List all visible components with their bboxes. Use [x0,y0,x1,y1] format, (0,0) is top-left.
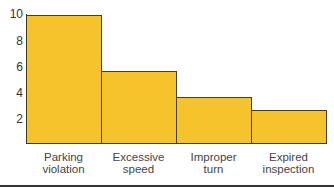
x-label-line: inspection [251,163,326,175]
y-tick-4: 4 [3,86,23,100]
bar-improper-turn [176,97,252,144]
bar-parking-violation [26,15,102,144]
y-axis [26,14,27,144]
x-axis [26,143,327,144]
cropped-caption-text [0,0,334,3]
x-label-line: turn [176,163,251,175]
y-tick-6: 6 [3,60,23,74]
x-label-line: Excessive [101,151,176,163]
x-label-expired-inspection: Expired inspection [251,151,326,175]
x-label-parking-violation: Parking violation [26,151,101,175]
x-label-line: Parking [26,151,101,163]
x-label-line: speed [101,163,176,175]
y-tick-8: 8 [3,34,23,48]
bottom-divider [0,185,334,187]
x-label-excessive-speed: Excessive speed [101,151,176,175]
x-label-line: violation [26,163,101,175]
y-tick-10: 10 [3,7,23,21]
x-label-line: Expired [251,151,326,163]
bar-excessive-speed [101,71,177,144]
bar-expired-inspection [251,110,327,144]
x-label-line: Improper [176,151,251,163]
x-label-improper-turn: Improper turn [176,151,251,175]
y-tick-2: 2 [3,112,23,126]
